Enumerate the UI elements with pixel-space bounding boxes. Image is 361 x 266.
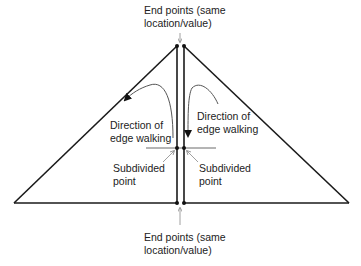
left-subdivided-pointer [163,151,174,162]
right-subdivided-point [182,146,186,150]
top-endpoints-line-1: End points (same [144,4,226,17]
left-direction-line-1: Direction of [110,119,171,132]
left-subdivided-line-2: point [113,175,165,188]
right-direction-line-1: Direction of [197,110,258,123]
right-direction-line-2: edge walking [197,123,258,136]
right-direction-label: Direction of edge walking [197,110,258,136]
bottom-endpoints-line-1: End points (same [144,231,226,244]
left-direction-label: Direction of edge walking [110,119,171,145]
bottom-right-endpoint [182,201,186,205]
diagram-canvas [0,0,361,266]
top-right-endpoint [182,44,186,48]
right-subdivided-pointer [187,151,198,162]
right-subdivided-line-2: point [199,175,251,188]
right-subdivided-line-1: Subdivided [199,162,251,175]
top-endpoints-line-2: location/value) [144,17,226,30]
bottom-endpoints-label: End points (same location/value) [144,231,226,257]
left-subdivided-label: Subdivided point [113,162,165,188]
top-endpoints-label: End points (same location/value) [144,4,226,30]
right-subdivided-label: Subdivided point [199,162,251,188]
bottom-endpoints-line-2: location/value) [144,244,226,257]
left-direction-line-2: edge walking [110,132,171,145]
top-left-endpoint [175,44,179,48]
bottom-left-endpoint [175,201,179,205]
left-subdivided-line-1: Subdivided [113,162,165,175]
left-subdivided-point [175,146,179,150]
